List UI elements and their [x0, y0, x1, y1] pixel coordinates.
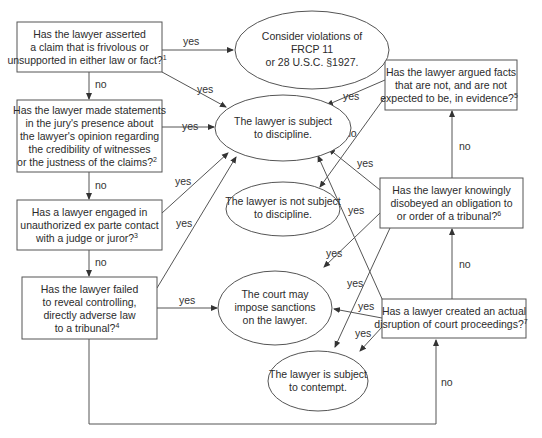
footnote-3: 3	[134, 232, 138, 239]
edge-label-q6-q5: no	[459, 140, 471, 152]
o3-line-2: to discipline.	[254, 208, 312, 220]
outcome-subject-to-discipline: The lawyer is subject to discipline.	[215, 95, 351, 161]
q1-line-2: a claim that is frivolous or	[30, 41, 149, 53]
edge-q1-o2	[162, 72, 226, 107]
q7-line-1: Has a lawyer created an actual	[382, 305, 526, 317]
q4-line-2: to reveal controlling,	[43, 296, 137, 308]
q6-line-1: Has the lawyer knowingly	[392, 184, 511, 196]
q2-line-1: Has the lawyer made statements	[13, 104, 166, 116]
q7-line-2: disruption of court proceedings?7	[374, 318, 527, 330]
question-box-q4: Has the lawyer failed to reveal controll…	[22, 277, 157, 339]
q2-line-4: the credibility of witnesses	[29, 143, 151, 155]
edge-label-q5-o2: yes	[343, 90, 359, 102]
edge-label-q6-o2: yes	[357, 157, 373, 169]
o5-line-1: The lawyer is subject	[269, 368, 367, 380]
q4-line-1: Has the lawyer failed	[41, 283, 139, 295]
edge-label-q7-o4: yes	[358, 300, 374, 312]
q1-line-1: Has the lawyer asserted	[33, 28, 146, 40]
edge-label-q4-o4: yes	[179, 294, 195, 306]
q5-line-3: expected to be, in evidence?5	[380, 92, 518, 104]
question-box-q6: Has the lawyer knowingly disobeyed an ob…	[380, 178, 523, 228]
q6-line-2: disobeyed an obligation to	[390, 197, 512, 209]
footnote-2: 2	[153, 156, 157, 163]
edge-label-q3-o2: yes	[175, 175, 191, 187]
question-box-q1: Has the lawyer asserted a claim that is …	[7, 22, 166, 72]
outcome-not-subject-to-discipline: The lawyer is not subject to discipline.	[225, 182, 341, 236]
footnote-1: 1	[163, 54, 167, 61]
question-box-q3: Has a lawyer engaged in unauthorized ex …	[17, 200, 162, 250]
edge-q4-o2	[157, 157, 236, 288]
edge-q6-o2	[329, 149, 380, 190]
edge-label-q2-o2: yes	[182, 120, 198, 132]
edge-label-q7-q6: no	[459, 258, 471, 270]
o4-line-3: on the lawyer.	[243, 314, 308, 326]
edge-label-q4-q7: no	[441, 376, 453, 388]
q3-line-1: Has a lawyer engaged in	[32, 206, 148, 218]
question-box-q7: Has a lawyer created an actual disruptio…	[374, 299, 527, 338]
outcome-court-may-impose-sanctions: The court may impose sanctions on the la…	[218, 271, 332, 345]
outcome-subject-to-contempt: The lawyer is subject to contempt.	[268, 351, 368, 411]
q4-line-4: to a tribunal?4	[55, 322, 120, 334]
footnote-5: 5	[514, 92, 518, 99]
o1-line-2: FRCP 11	[291, 43, 333, 55]
o2-line-2: to discipline.	[254, 128, 312, 140]
q5-line-1: Has the lawyer argued facts	[386, 66, 516, 78]
q3-line-2: unauthorized ex parte contact	[20, 219, 158, 231]
q2-line-5: or the justness of the claims?2	[17, 156, 157, 168]
o3-line-1: The lawyer is not subject	[225, 195, 341, 207]
edge-label-q6-o5: yes	[347, 277, 363, 289]
question-box-q2: Has the lawyer made statements in the ju…	[13, 100, 166, 172]
edge-label-q1-q2: no	[95, 78, 107, 90]
o5-line-2: to contempt.	[289, 381, 347, 393]
q5-line-2: that are not, and are not	[395, 79, 507, 91]
q3-line-3: with a judge or juror?3	[35, 232, 138, 244]
q4-line-3: directly adverse law	[43, 309, 136, 321]
edge-label-q4-o2: yes	[176, 217, 192, 229]
flowchart-diagram: yes yes no yes no yes no yes yes no yes	[0, 0, 542, 438]
edge-label-q7-o5: yes	[355, 327, 371, 339]
edge-label-q6-o4: yes	[348, 204, 364, 216]
q2-line-3: the lawyer's opinion regarding	[20, 130, 159, 142]
q1-line-3: unsupported in either law or fact?1	[7, 54, 166, 66]
question-box-q5: Has the lawyer argued facts that are not…	[380, 60, 518, 110]
o4-line-1: The court may	[241, 288, 309, 300]
o1-line-3: or 28 U.S.C. §1927.	[266, 56, 359, 68]
edge-label-q2-q3: no	[95, 179, 107, 191]
footnote-6: 6	[497, 210, 501, 217]
outcome-consider-violations: Consider violations of FRCP 11 or 28 U.S…	[235, 11, 389, 89]
q2-line-2: in the jury's presence about	[25, 117, 153, 129]
q6-line-3: or order of a tribunal?6	[397, 210, 501, 222]
edge-label-q1-o1: yes	[183, 35, 199, 47]
footnote-4: 4	[115, 322, 119, 329]
edge-label-q1-o2: yes	[197, 83, 213, 95]
o1-line-1: Consider violations of	[262, 30, 362, 42]
edge-q4-q7	[89, 339, 436, 424]
o2-line-1: The lawyer is subject	[234, 115, 332, 127]
edge-label-q3-q4: no	[95, 256, 107, 268]
o4-line-2: impose sanctions	[234, 301, 315, 313]
edge-q3-o2	[162, 153, 228, 213]
edge-label-q7-o2: yes	[326, 247, 342, 259]
footnote-7: 7	[524, 318, 528, 325]
